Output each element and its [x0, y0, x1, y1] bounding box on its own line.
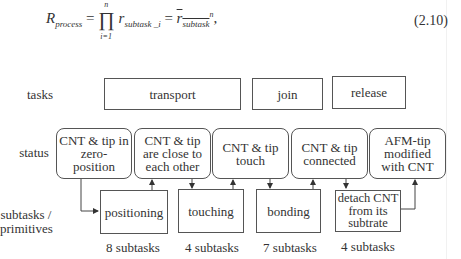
status-line: each other: [146, 160, 200, 173]
status-connected: CNT & tip connected: [291, 128, 368, 179]
subtask-count-touching: 4 subtasks: [172, 240, 252, 256]
task-join: join: [252, 78, 323, 110]
status-line: CNT & tip: [301, 141, 357, 154]
subtask-count-positioning: 8 subtasks: [93, 240, 173, 256]
status-line: position: [73, 160, 115, 173]
subtask-bonding: bonding: [256, 189, 321, 233]
subtask-detach-cnt: detach CNT from its subtrate: [335, 190, 401, 232]
subtask-positioning: positioning: [100, 190, 168, 234]
status-close-to-each-other: CNT & tip are close to each other: [134, 128, 211, 179]
status-line: connected: [303, 154, 356, 167]
status-afm-tip-modified: AFM-tip modified with CNT: [369, 128, 446, 179]
status-line: with CNT: [381, 160, 433, 173]
subtask-count-detach: 4 subtasks: [328, 239, 408, 255]
subtask-label: detach CNT: [338, 192, 399, 205]
status-line: CNT & tip: [222, 141, 278, 154]
subtask-label: touching: [188, 205, 234, 218]
task-transport: transport: [104, 78, 241, 110]
subtask-touching: touching: [178, 189, 244, 233]
subtask-label: bonding: [267, 205, 310, 218]
subtask-count-bonding: 7 subtasks: [250, 240, 330, 256]
status-touch: CNT & tip touch: [212, 128, 289, 179]
status-zero-position: CNT & tip in zero- position: [56, 128, 132, 179]
status-line: touch: [236, 154, 265, 167]
task-release: release: [332, 76, 406, 109]
subtask-label: subtrate: [348, 217, 388, 230]
subtask-label: positioning: [105, 206, 164, 219]
